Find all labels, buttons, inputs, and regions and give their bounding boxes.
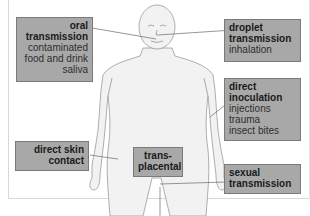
oral-item-contaminated: contaminated	[21, 42, 88, 53]
transplacental-label: trans- placental	[133, 147, 183, 177]
skin-title-2: contact	[20, 155, 84, 166]
sexual-title-2: transmission	[229, 178, 296, 189]
oral-title-1: oral	[21, 20, 88, 31]
droplet-item-inhalation: inhalation	[229, 44, 296, 55]
inoculation-item-injections: injections	[229, 103, 296, 114]
sexual-title-1: sexual	[229, 167, 296, 178]
skin-title-1: direct skin	[20, 144, 84, 155]
placental-title-2: placental	[138, 161, 178, 172]
direct-skin-contact-label: direct skin contact	[15, 141, 89, 171]
inoculation-item-trauma: trauma	[229, 114, 296, 125]
inoculation-title-1: direct	[229, 81, 296, 92]
oral-transmission-label: oral transmission contaminated food and …	[16, 17, 93, 82]
sexual-transmission-label: sexual transmission	[224, 164, 301, 194]
inoculation-title-2: inoculation	[229, 92, 296, 103]
inoculation-item-insect-bites: insect bites	[229, 125, 296, 136]
placental-title-1: trans-	[138, 150, 178, 161]
oral-title-2: transmission	[21, 31, 88, 42]
oral-item-saliva: saliva	[21, 64, 88, 75]
droplet-title-1: droplet	[229, 22, 296, 33]
direct-inoculation-label: direct inoculation injections trauma ins…	[224, 78, 301, 141]
droplet-transmission-label: droplet transmission inhalation	[224, 19, 301, 62]
droplet-title-2: transmission	[229, 33, 296, 44]
oral-item-food-drink: food and drink	[21, 53, 88, 64]
